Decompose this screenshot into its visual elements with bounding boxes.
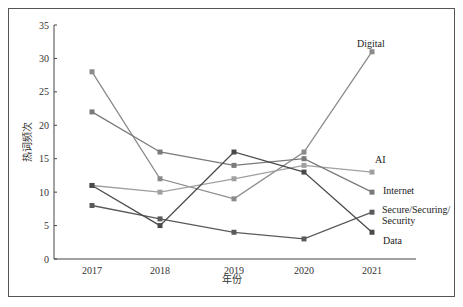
data-point-marker: [302, 236, 307, 241]
line-chart: 0510152025303520172018201920202021 热词频次 …: [0, 0, 463, 307]
data-point-marker: [232, 196, 237, 201]
label-internet: Internet: [383, 185, 414, 196]
y-tick-label: 25: [39, 86, 49, 97]
data-point-marker: [232, 163, 237, 168]
data-point-marker: [158, 150, 163, 155]
data-point-marker: [302, 150, 307, 155]
data-point-marker: [158, 190, 163, 195]
data-point-marker: [302, 170, 307, 175]
x-axis-title: 年份: [222, 273, 242, 285]
axes: 0510152025303520172018201920202021: [39, 20, 416, 277]
y-tick-label: 15: [39, 153, 49, 164]
data-point-marker: [90, 109, 95, 114]
data-point-marker: [90, 69, 95, 74]
x-tick-label: 2018: [150, 265, 170, 276]
data-point-marker: [232, 230, 237, 235]
y-tick-label: 20: [39, 120, 49, 131]
y-tick-label: 10: [39, 187, 49, 198]
data-point-marker: [232, 176, 237, 181]
y-tick-label: 0: [44, 254, 49, 265]
label-secure-2: Security: [382, 215, 415, 226]
y-tick-label: 5: [44, 220, 49, 231]
data-point-marker: [302, 156, 307, 161]
data-point-marker: [370, 210, 375, 215]
data-point-marker: [370, 49, 375, 54]
data-point-marker: [90, 183, 95, 188]
y-tick-label: 30: [39, 53, 49, 64]
label-ai: AI: [375, 154, 386, 165]
y-tick-label: 35: [39, 20, 49, 31]
data-point-marker: [158, 216, 163, 221]
label-digital: Digital: [357, 38, 385, 49]
y-axis-title: 热词频次: [21, 122, 33, 162]
data-point-marker: [370, 230, 375, 235]
data-point-marker: [90, 203, 95, 208]
label-secure-1: Secure/Securing/: [382, 204, 451, 215]
label-data: Data: [383, 235, 402, 246]
x-tick-label: 2017: [82, 265, 102, 276]
series-lines: [90, 49, 375, 241]
data-point-marker: [232, 150, 237, 155]
data-point-marker: [302, 163, 307, 168]
data-point-marker: [370, 170, 375, 175]
x-tick-label: 2021: [362, 265, 382, 276]
data-point-marker: [158, 223, 163, 228]
x-tick-label: 2020: [294, 265, 314, 276]
data-point-marker: [370, 190, 375, 195]
data-point-marker: [158, 176, 163, 181]
